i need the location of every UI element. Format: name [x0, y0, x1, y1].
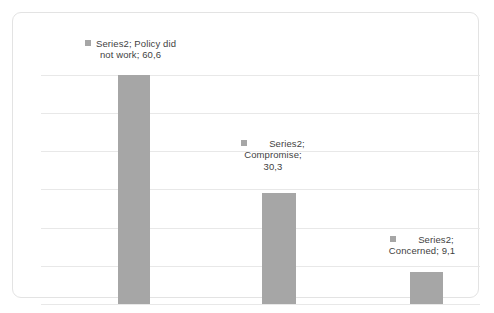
bar-compromise[interactable] [262, 193, 296, 304]
bar-policy-did-not-work[interactable] [118, 75, 150, 304]
plot-area [41, 75, 480, 304]
data-label-text-line-1: Series2; Policy did [96, 38, 176, 49]
data-label-policy-did-not-work: Series2; Policy did not work; 60,6 [63, 26, 198, 72]
data-label-text-rest: Concerned; 9,1 [360, 245, 484, 257]
data-label-concerned: Series2; Concerned; 9,1 [360, 222, 484, 268]
data-label-line-1: Series2; Policy did [85, 38, 176, 49]
bars-layer [41, 75, 480, 304]
data-label-text-line-1: Series2; [269, 138, 305, 149]
data-label-line-1: Series2; [390, 234, 454, 245]
data-label-text-rest: Compromise; 30,3 [209, 149, 337, 172]
data-label-compromise: Series2; Compromise; 30,3 [209, 126, 337, 184]
data-label-text-line-1: Series2; [418, 234, 454, 245]
chart-frame: Series2; Policy did not work; 60,6 Serie… [12, 12, 479, 298]
legend-square-marker [85, 40, 91, 46]
bar-concerned[interactable] [410, 272, 443, 304]
data-label-line-1: Series2; [241, 138, 305, 149]
legend-square-marker [390, 236, 396, 242]
chart-screenshot: Series2; Policy did not work; 60,6 Serie… [0, 0, 494, 313]
gridline-6 [41, 304, 480, 305]
legend-square-marker [241, 140, 247, 146]
data-label-text-rest: not work; 60,6 [63, 49, 198, 61]
